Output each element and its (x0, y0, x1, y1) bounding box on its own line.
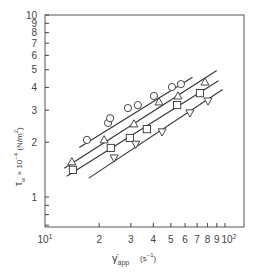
square-marker (69, 166, 76, 173)
fit-line-triangles-down (89, 89, 223, 178)
circle-marker (83, 136, 90, 143)
square-marker (196, 90, 203, 97)
fit-line-squares (67, 81, 219, 176)
triangle-up-marker (174, 92, 182, 99)
log-log-chart: 12345678910 10123456789102 γ̇app (s−1) τ… (0, 0, 254, 278)
x-tick-label: 101 (37, 233, 52, 245)
triangle-up-marker (100, 136, 108, 143)
circle-marker (168, 83, 175, 90)
x-tick-label: 2 (96, 234, 102, 245)
triangle-down-marker (158, 129, 166, 136)
square-marker (174, 101, 181, 108)
x-tick-label: 102 (221, 233, 236, 245)
square-marker (143, 126, 150, 133)
y-axis: 12345678910 (26, 10, 49, 226)
x-axis-label: γ̇app (s−1) (112, 252, 157, 267)
x-axis: 10123456789102 (37, 223, 236, 245)
y-tick-label: 6 (31, 50, 37, 61)
y-tick-label: 1 (31, 192, 37, 203)
y-tick-label: 10 (26, 10, 38, 21)
triangle-down-marker (110, 155, 118, 162)
circle-marker (177, 81, 184, 88)
triangle-up-marker (130, 120, 138, 127)
circle-marker (107, 115, 114, 122)
x-tick-label: 5 (168, 234, 174, 245)
plot-frame (45, 15, 244, 227)
square-marker (107, 144, 114, 151)
y-tick-label: 5 (31, 64, 37, 75)
circle-marker (134, 101, 141, 108)
fit-lines (64, 71, 222, 179)
svg-text:τw × 10−4 (N/m2): τw × 10−4 (N/m2) (13, 127, 26, 186)
x-tick-label: 8 (205, 234, 211, 245)
y-tick-label: 4 (31, 82, 37, 93)
square-marker (126, 134, 133, 141)
y-tick-label: 3 (31, 105, 37, 116)
x-tick-label: 6 (182, 234, 188, 245)
y-tick-label: 7 (31, 38, 37, 49)
circle-marker (124, 104, 131, 111)
x-tick-label: 4 (151, 234, 157, 245)
triangle-up-marker (201, 78, 209, 85)
y-tick-label: 2 (31, 137, 37, 148)
fit-line-triangles-up (64, 71, 216, 169)
x-tick-label: 3 (128, 234, 134, 245)
data-markers (68, 78, 212, 174)
y-axis-label: τw × 10−4 (N/m2) (13, 127, 26, 186)
svg-text:γ̇app: γ̇app (112, 252, 129, 267)
x-tick-label: 9 (214, 234, 220, 245)
circle-marker (150, 92, 157, 99)
svg-text:(s−1): (s−1) (140, 252, 157, 263)
x-tick-label: 7 (194, 234, 200, 245)
